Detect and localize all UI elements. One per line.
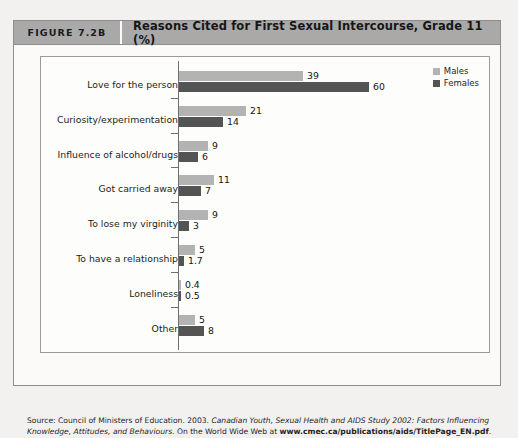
bar-value-label: 14 <box>227 117 239 127</box>
source-prefix: Source: Council of Ministers of Educatio… <box>27 416 211 425</box>
category-label: Other <box>46 323 178 334</box>
axis-tick <box>171 133 178 134</box>
chart-category-group: Got carried away117 <box>41 175 489 196</box>
chart-category-group: Loneliness0.40.5 <box>41 280 489 301</box>
bar-males <box>179 315 195 325</box>
chart-category-group: Influence of alcohol/drugs96 <box>41 141 489 162</box>
bar-females <box>179 82 369 92</box>
bar-value-label: 1.7 <box>188 256 203 266</box>
source-citation: Source: Council of Ministers of Educatio… <box>27 415 513 438</box>
bar-value-label: 5 <box>199 315 205 325</box>
bar-females <box>179 152 198 162</box>
chart-category-group: Love for the person3960 <box>41 71 489 92</box>
chart-category-group: Other58 <box>41 315 489 336</box>
figure-title: Reasons Cited for First Sexual Intercour… <box>122 21 500 44</box>
axis-tick <box>171 307 178 308</box>
source-suffix: . <box>489 427 491 436</box>
category-label: To lose my virginity <box>46 218 178 229</box>
chart-category-group: To have a relationship51.7 <box>41 245 489 266</box>
axis-tick <box>171 272 178 273</box>
bar-value-label: 5 <box>199 245 205 255</box>
bar-females <box>179 256 184 266</box>
bar-value-label: 3 <box>193 221 199 231</box>
bar-value-label: 0.4 <box>185 280 200 290</box>
bar-value-label: 8 <box>208 326 214 336</box>
category-axis-line <box>178 61 179 350</box>
bar-value-label: 6 <box>202 152 208 162</box>
bar-males <box>179 141 208 151</box>
source-url: www.cmec.ca/publications/aids/TitlePage_… <box>280 427 489 436</box>
category-label: Love for the person <box>46 79 178 90</box>
axis-tick <box>171 98 178 99</box>
bar-value-label: 7 <box>205 186 211 196</box>
bar-value-label: 21 <box>250 106 262 116</box>
category-label: Influence of alcohol/drugs <box>46 149 178 160</box>
bar-males <box>179 280 181 290</box>
source-middle: . On the World Wide Web at <box>172 427 279 436</box>
axis-tick <box>171 237 178 238</box>
bar-females <box>179 326 204 336</box>
category-label: To have a relationship <box>46 253 178 264</box>
chart-category-group: Curiosity/experimentation2114 <box>41 106 489 127</box>
bar-value-label: 39 <box>307 71 319 81</box>
category-label: Curiosity/experimentation <box>46 114 178 125</box>
bar-females <box>179 117 223 127</box>
bar-males <box>179 210 208 220</box>
bar-females <box>179 291 181 301</box>
axis-tick <box>171 167 178 168</box>
figure-container: FIGURE 7.2B Reasons Cited for First Sexu… <box>13 20 501 386</box>
category-label: Got carried away <box>46 183 178 194</box>
bar-value-label: 0.5 <box>185 291 200 301</box>
axis-tick <box>171 202 178 203</box>
bar-value-label: 60 <box>373 82 385 92</box>
bar-chart: Love for the person3960Curiosity/experim… <box>41 57 489 352</box>
chart-category-group: To lose my virginity93 <box>41 210 489 231</box>
bar-males <box>179 175 214 185</box>
bar-males <box>179 245 195 255</box>
figure-number-label: FIGURE 7.2B <box>14 21 122 44</box>
bar-females <box>179 221 189 231</box>
category-label: Loneliness <box>46 288 178 299</box>
bar-females <box>179 186 201 196</box>
bar-value-label: 11 <box>218 175 230 185</box>
plot-area: Males Females Love for the person3960Cur… <box>40 56 490 353</box>
bar-males <box>179 71 303 81</box>
bar-value-label: 9 <box>212 210 218 220</box>
bar-males <box>179 106 246 116</box>
bar-value-label: 9 <box>212 141 218 151</box>
figure-header: FIGURE 7.2B Reasons Cited for First Sexu… <box>14 21 500 45</box>
